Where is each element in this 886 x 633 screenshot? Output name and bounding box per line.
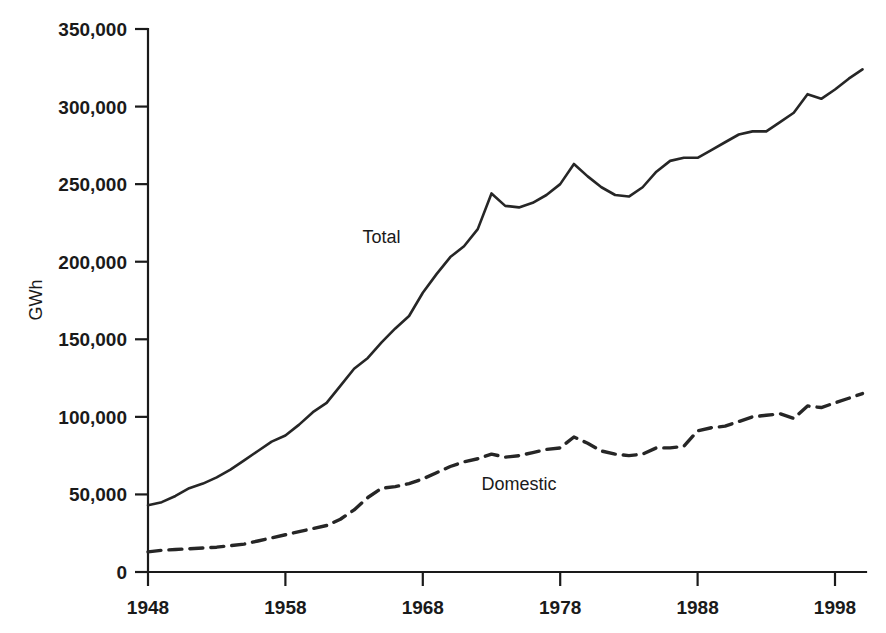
y-tick-label: 200,000 bbox=[58, 252, 127, 273]
y-tick-labels: 050,000100,000150,000200,000250,000300,0… bbox=[58, 19, 127, 583]
line-chart: 050,000100,000150,000200,000250,000300,0… bbox=[0, 0, 886, 633]
y-tick-label: 0 bbox=[116, 562, 127, 583]
y-axis-title: GWh bbox=[26, 279, 46, 320]
x-axis: 194819581968197819881998 bbox=[127, 572, 866, 618]
y-axis: 050,000100,000150,000200,000250,000300,0… bbox=[26, 19, 148, 583]
x-tick-label: 1998 bbox=[814, 597, 856, 618]
x-tick-labels: 194819581968197819881998 bbox=[127, 597, 856, 618]
series-label-total: Total bbox=[363, 227, 401, 247]
series-line-total bbox=[148, 69, 862, 505]
x-tick-label: 1958 bbox=[264, 597, 306, 618]
x-tick-label: 1978 bbox=[539, 597, 581, 618]
x-tick-label: 1968 bbox=[402, 597, 444, 618]
x-tick-marks bbox=[148, 572, 835, 586]
series-line-domestic bbox=[148, 394, 862, 552]
series-label-domestic: Domestic bbox=[481, 474, 556, 494]
y-tick-label: 100,000 bbox=[58, 407, 127, 428]
y-tick-label: 150,000 bbox=[58, 329, 127, 350]
x-tick-label: 1948 bbox=[127, 597, 169, 618]
y-tick-label: 350,000 bbox=[58, 19, 127, 40]
x-tick-label: 1988 bbox=[676, 597, 718, 618]
y-tick-marks bbox=[135, 29, 148, 572]
y-tick-label: 300,000 bbox=[58, 97, 127, 118]
y-tick-label: 250,000 bbox=[58, 174, 127, 195]
chart-container: 050,000100,000150,000200,000250,000300,0… bbox=[0, 0, 886, 633]
y-tick-label: 50,000 bbox=[69, 484, 127, 505]
